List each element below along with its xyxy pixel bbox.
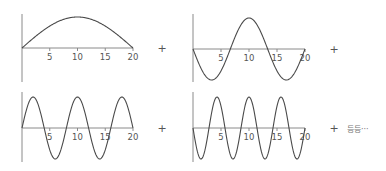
x-tick-label: 20 xyxy=(128,132,139,142)
plus-operator: + xyxy=(329,122,338,135)
x-tick-label: 5 xyxy=(218,53,223,63)
x-tick-label: 5 xyxy=(47,132,52,142)
x-tick-label: 15 xyxy=(100,52,111,62)
plus-operator: + xyxy=(157,42,166,55)
x-tick-label: 10 xyxy=(72,132,83,142)
panel-harmonic-1: 5101520+ xyxy=(22,14,167,82)
sine-curve xyxy=(22,17,133,48)
fourier-series-diagram: 5101520+ 5101520+ 5101520+ 5101520+ 등등··… xyxy=(0,0,386,171)
x-tick-label: 10 xyxy=(244,53,255,63)
panel-harmonic-3: 5101520+ xyxy=(193,14,339,82)
etc-label: 등등··· xyxy=(347,125,369,134)
x-tick-label: 20 xyxy=(300,132,311,142)
x-tick-label: 5 xyxy=(218,132,223,142)
x-tick-label: 20 xyxy=(128,52,139,62)
panel-harmonic-7: 5101520+ xyxy=(193,92,339,162)
x-tick-label: 10 xyxy=(72,52,83,62)
x-tick-label: 15 xyxy=(272,132,283,142)
plus-operator: + xyxy=(157,122,166,135)
plus-operator: + xyxy=(329,43,338,56)
x-tick-label: 10 xyxy=(244,132,255,142)
panel-harmonic-5: 5101520+ xyxy=(22,92,167,162)
x-tick-label: 15 xyxy=(272,53,283,63)
x-tick-label: 5 xyxy=(47,52,52,62)
